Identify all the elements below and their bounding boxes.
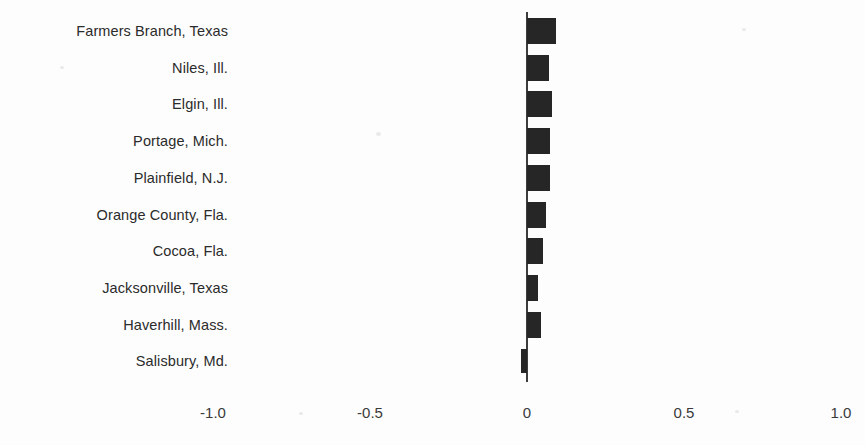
bar bbox=[527, 165, 550, 191]
bar bbox=[527, 128, 550, 154]
bar bbox=[527, 238, 543, 264]
bar bbox=[521, 349, 527, 373]
plot-area bbox=[0, 0, 865, 390]
bar bbox=[527, 91, 552, 117]
x-tick-label: -1.0 bbox=[200, 404, 226, 421]
bar bbox=[527, 312, 541, 338]
bar-chart: Farmers Branch, TexasNiles, Ill.Elgin, I… bbox=[0, 0, 865, 445]
bar bbox=[527, 202, 546, 228]
x-tick-label: 1.0 bbox=[831, 404, 852, 421]
x-tick-label: -0.5 bbox=[357, 404, 383, 421]
x-tick-label: 0 bbox=[523, 404, 531, 421]
bar bbox=[527, 18, 556, 44]
x-tick-label: 0.5 bbox=[674, 404, 695, 421]
bar bbox=[527, 55, 549, 81]
bar bbox=[527, 275, 538, 301]
x-axis: -1.0-0.500.51.0 bbox=[0, 390, 865, 445]
